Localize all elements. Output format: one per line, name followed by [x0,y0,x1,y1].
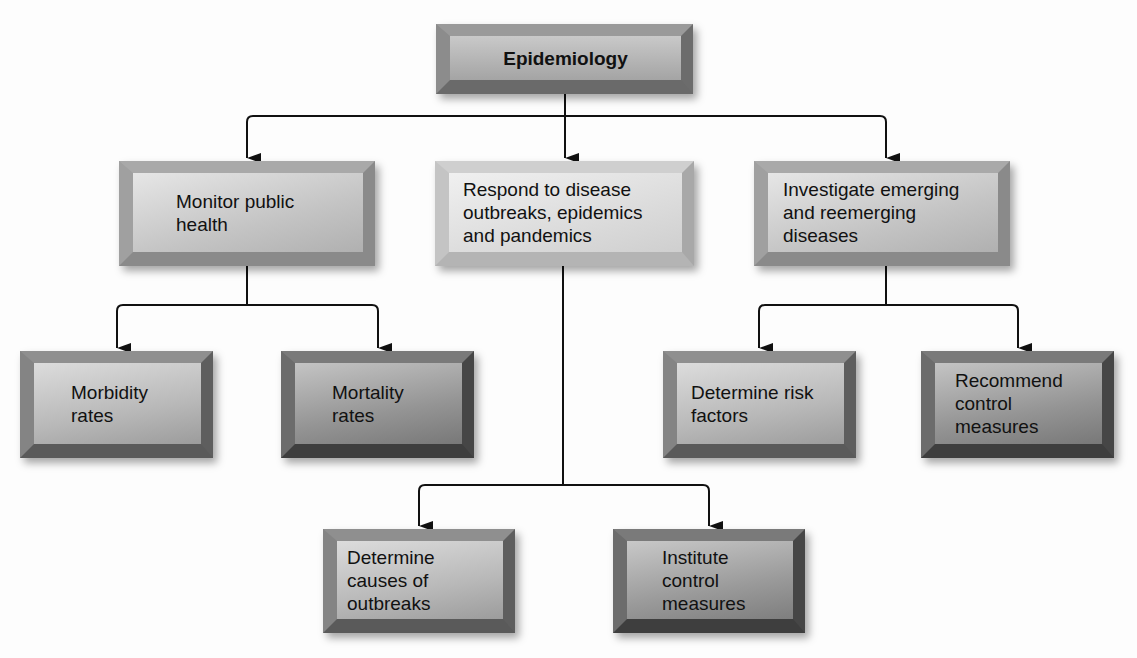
node-morbidity-rates: Morbidity rates [20,351,213,458]
node-monitor-public-health: Monitor public health [119,161,375,266]
node-determine-risk-factors: Determine risk factors [663,351,856,458]
node-label: Morbidity rates [71,381,148,427]
node-label: Investigate emerging and reemerging dise… [783,178,959,247]
node-label: Determine causes of outbreaks [347,546,435,615]
node-determine-causes: Determine causes of outbreaks [323,529,515,633]
node-label: Institute control measures [662,546,745,615]
node-recommend-control-measures: Recommend control measures [921,351,1114,458]
connector-lines [0,0,1137,658]
node-label: Monitor public health [176,190,294,236]
node-epidemiology: Epidemiology [436,24,693,94]
node-label: Mortality rates [332,381,404,427]
node-mortality-rates: Mortality rates [281,351,474,458]
diagram-canvas: Epidemiology Monitor public health Respo… [0,0,1137,658]
node-investigate-emerging: Investigate emerging and reemerging dise… [754,161,1010,266]
node-label: Determine risk factors [691,381,813,427]
node-label: Recommend control measures [955,369,1063,438]
node-respond-to-outbreaks: Respond to disease outbreaks, epidemics … [435,161,694,266]
node-label: Respond to disease outbreaks, epidemics … [463,178,643,247]
node-label: Epidemiology [503,47,628,70]
node-institute-control-measures: Institute control measures [613,529,805,633]
root-branch-line [247,116,886,140]
